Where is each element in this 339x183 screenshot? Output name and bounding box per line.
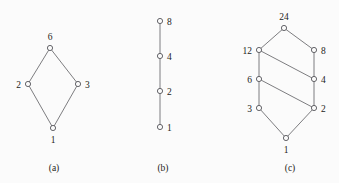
node-1 <box>50 125 55 130</box>
node-label-6: 6 <box>48 32 53 42</box>
caption-panel-c: (c) <box>285 163 296 174</box>
node-2 <box>311 105 316 110</box>
edge-1-2 <box>286 108 314 138</box>
panel-a: 6231(a) <box>16 32 90 174</box>
node-label-1: 1 <box>51 135 56 145</box>
node-label-2: 2 <box>167 87 172 97</box>
node-label-1: 1 <box>167 123 172 133</box>
node-4 <box>157 53 162 58</box>
figure-canvas: 6231(a)8421(b)2412864321(c) <box>0 0 339 183</box>
node-label-1: 1 <box>284 145 289 155</box>
panels-group: 6231(a)8421(b)2412864321(c) <box>16 12 326 174</box>
node-label-4: 4 <box>321 75 326 85</box>
edge-12-24 <box>259 28 284 50</box>
node-label-2: 2 <box>321 104 326 114</box>
node-2 <box>25 81 30 86</box>
node-8 <box>311 47 316 52</box>
node-label-6: 6 <box>247 75 252 85</box>
node-24 <box>281 25 286 30</box>
node-4 <box>311 76 316 81</box>
panel-b: 8421(b) <box>157 17 172 174</box>
edge-2-6 <box>259 79 314 108</box>
node-1 <box>283 135 288 140</box>
node-3 <box>256 105 261 110</box>
caption-panel-b: (b) <box>157 163 168 174</box>
node-8 <box>157 18 162 23</box>
edge-8-24 <box>284 28 314 50</box>
edge-1-3 <box>259 108 286 138</box>
node-label-3: 3 <box>247 104 252 114</box>
node-label-24: 24 <box>279 12 289 22</box>
node-label-8: 8 <box>167 17 172 27</box>
edge-3-6 <box>50 48 78 84</box>
node-6 <box>47 45 52 50</box>
node-2 <box>157 88 162 93</box>
node-label-2: 2 <box>16 80 21 90</box>
hasse-diagram-figure: 6231(a)8421(b)2412864321(c) <box>0 0 339 183</box>
edge-4-12 <box>259 50 314 79</box>
node-3 <box>75 81 80 86</box>
node-12 <box>256 47 261 52</box>
node-label-8: 8 <box>321 46 326 56</box>
node-6 <box>256 76 261 81</box>
caption-panel-a: (a) <box>49 163 60 174</box>
node-label-12: 12 <box>243 46 253 56</box>
node-label-4: 4 <box>167 52 172 62</box>
panel-c: 2412864321(c) <box>243 12 327 174</box>
node-1 <box>157 124 162 129</box>
node-label-3: 3 <box>85 80 90 90</box>
edge-1-2 <box>28 84 53 128</box>
edge-1-3 <box>53 84 78 128</box>
edge-2-6 <box>28 48 50 84</box>
